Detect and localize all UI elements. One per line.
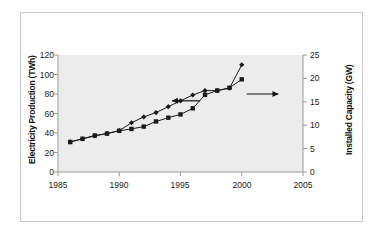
y-axis-left: [54, 55, 58, 172]
x-axis: [58, 172, 303, 176]
chart-svg: [0, 0, 385, 237]
series-electricity-production: [68, 62, 245, 144]
y-axis-right: [303, 55, 307, 172]
